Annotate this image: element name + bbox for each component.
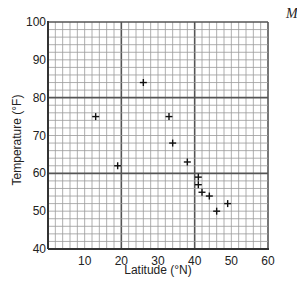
x-tick-label: 60 xyxy=(261,254,275,268)
grid-lines xyxy=(48,22,268,249)
scatter-chart: 102030405060 405060708090100 Latitude (°… xyxy=(0,0,297,294)
plus-marker-icon xyxy=(114,162,121,169)
plus-marker-icon xyxy=(169,140,176,147)
y-tick-label: 90 xyxy=(33,53,47,67)
x-axis-label: Latitude (°N) xyxy=(124,263,192,277)
plus-marker-icon xyxy=(92,113,99,120)
plus-marker-icon xyxy=(199,189,206,196)
y-tick-label: 50 xyxy=(33,204,47,218)
axes xyxy=(48,21,269,249)
y-tick-label: 60 xyxy=(33,166,47,180)
x-tick-label: 50 xyxy=(225,254,239,268)
y-tick-label: 70 xyxy=(33,129,47,143)
y-tick-label: 40 xyxy=(33,242,47,256)
x-tick-label: 10 xyxy=(78,254,92,268)
data-points xyxy=(92,79,231,215)
plus-marker-icon xyxy=(224,200,231,207)
corner-text: M xyxy=(286,6,297,22)
plus-marker-icon xyxy=(206,193,213,200)
plus-marker-icon xyxy=(140,79,147,86)
plus-marker-icon xyxy=(195,181,202,188)
y-tick-label: 100 xyxy=(26,15,46,29)
plus-marker-icon xyxy=(184,158,191,165)
y-tick-labels: 405060708090100 xyxy=(26,15,46,256)
y-axis-label: Temperature (°F) xyxy=(10,95,24,186)
plus-marker-icon xyxy=(213,208,220,215)
plus-marker-icon xyxy=(195,174,202,181)
plus-marker-icon xyxy=(166,113,173,120)
y-tick-label: 80 xyxy=(33,91,47,105)
